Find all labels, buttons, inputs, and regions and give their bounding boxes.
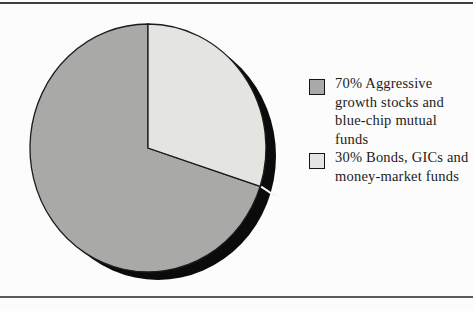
legend-item-bonds-gics: 30% Bonds, GICs and money-market funds — [309, 148, 469, 185]
legend-label-aggressive-growth: 70% Aggressive growth stocks and blue-ch… — [335, 74, 444, 148]
pie-chart-figure: 70% Aggressive growth stocks and blue-ch… — [0, 0, 473, 311]
legend-swatch-aggressive-growth — [309, 79, 325, 95]
pie-legend: 70% Aggressive growth stocks and blue-ch… — [309, 74, 469, 185]
legend-swatch-bonds-gics — [309, 153, 325, 169]
legend-item-aggressive-growth: 70% Aggressive growth stocks and blue-ch… — [309, 74, 469, 148]
legend-label-bonds-gics: 30% Bonds, GICs and money-market funds — [335, 148, 469, 185]
bottom-rule — [0, 296, 473, 298]
